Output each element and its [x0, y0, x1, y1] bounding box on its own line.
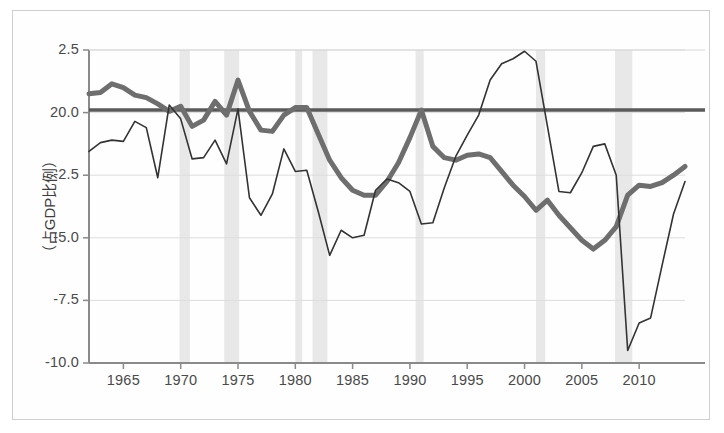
- recession-band: [313, 50, 328, 363]
- recession-band: [180, 50, 190, 363]
- y-tick-label: -7.5: [21, 291, 79, 307]
- x-tick-label: 1965: [95, 372, 151, 388]
- data-series-group: [89, 51, 685, 350]
- line-chart-plot: [0, 0, 724, 433]
- y-tick-label: -2.5: [21, 166, 79, 182]
- series-line-thin-dark-series: [89, 51, 685, 350]
- x-tick-label: 1970: [153, 372, 209, 388]
- series-line-thick-gray-series: [89, 80, 685, 249]
- recession-band: [295, 50, 302, 363]
- gridlines-group: [89, 50, 685, 363]
- x-tick-label: 1990: [382, 372, 438, 388]
- y-tick-label: -5.0: [21, 229, 79, 245]
- x-tick-label: 1985: [325, 372, 381, 388]
- y-tick-label: 2.5: [21, 41, 79, 57]
- recession-bands-group: [180, 50, 633, 363]
- x-tick-label: 2010: [611, 372, 667, 388]
- x-tick-label: 1975: [210, 372, 266, 388]
- y-tick-label: -10.0: [21, 354, 79, 370]
- chart-figure: （占GDP比例） 2.520.0-2.5-5.0-7.5-10.0 196519…: [0, 0, 724, 433]
- x-tick-label: 1995: [439, 372, 495, 388]
- x-tick-label: 2005: [554, 372, 610, 388]
- recession-band: [416, 50, 424, 363]
- x-tick-label: 1980: [267, 372, 323, 388]
- x-tick-label: 2000: [497, 372, 553, 388]
- y-tick-label: 20.0: [21, 104, 79, 120]
